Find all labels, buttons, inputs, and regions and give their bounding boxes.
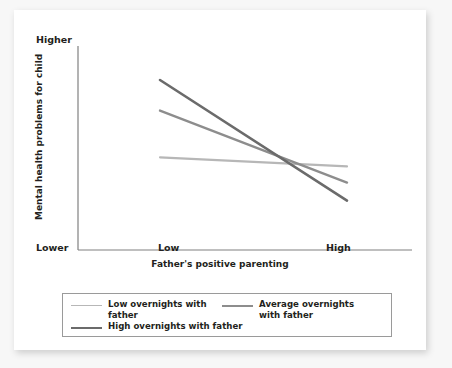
page-background: Higher Lower Mental health problems for … (0, 0, 452, 368)
series-line-high-overnights (160, 80, 347, 201)
y-axis-title: Mental health problems for child (34, 70, 44, 220)
legend-swatch-high-overnights (71, 327, 102, 329)
legend-item-low-overnights: Low overnights with father (71, 299, 214, 321)
legend-label-high-overnights: High overnights with father (108, 321, 242, 332)
legend-row-top: Low overnights with father Average overn… (71, 299, 383, 321)
chart-legend: Low overnights with father Average overn… (62, 293, 392, 337)
legend-label-average-overnights: Average overnights with father (259, 299, 375, 321)
x-tick-low: Low (158, 242, 179, 253)
series-line-low-overnights (160, 157, 347, 166)
legend-item-average-overnights: Average overnights with father (222, 299, 375, 321)
series-line-average-overnights (160, 111, 347, 183)
y-axis-top-label: Higher (36, 34, 72, 45)
legend-label-low-overnights: Low overnights with father (108, 299, 214, 321)
x-axis-title: Father's positive parenting (14, 259, 426, 269)
x-tick-high: High (326, 242, 351, 253)
legend-swatch-low-overnights (71, 305, 102, 306)
y-axis-bottom-label: Lower (36, 242, 69, 253)
legend-swatch-average-overnights (222, 305, 253, 307)
legend-row-bottom: High overnights with father (71, 321, 383, 332)
plot-area (14, 10, 426, 270)
line-chart: Higher Lower Mental health problems for … (14, 10, 426, 350)
figure-card: Higher Lower Mental health problems for … (14, 10, 426, 350)
legend-item-high-overnights: High overnights with father (71, 321, 246, 332)
